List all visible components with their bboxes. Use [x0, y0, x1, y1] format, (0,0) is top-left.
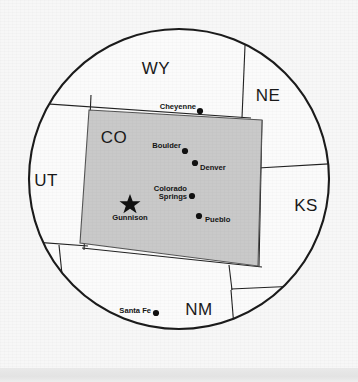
city-label-denver: Denver: [200, 163, 226, 172]
state-label-ne: NE: [256, 86, 281, 105]
city-dot-denver: [192, 160, 198, 166]
city-dot-colorado-springs: [189, 193, 195, 199]
city-label-pueblo: Pueblo: [205, 215, 231, 224]
city-dot-cheyenne: [197, 108, 203, 114]
state-label-wy: WY: [142, 59, 170, 78]
bottom-gray-band: [0, 368, 358, 382]
city-dot-santa-fe: [153, 310, 159, 316]
state-label-nm: NM: [185, 300, 212, 319]
state-label-ut: UT: [34, 171, 58, 190]
city-label-santa-fe: Santa Fe: [119, 306, 151, 315]
city-dot-boulder: [182, 148, 188, 154]
map-figure: WY NE CO UT KS NM Cheyenne Boulder Denve…: [0, 0, 358, 382]
city-dot-pueblo: [196, 213, 202, 219]
city-label-colorado-springs-line2: Springs: [159, 192, 187, 201]
region-map-svg: WY NE CO UT KS NM Cheyenne Boulder Denve…: [0, 0, 358, 382]
city-label-boulder: Boulder: [152, 141, 181, 150]
city-label-gunnison: Gunnison: [112, 213, 148, 222]
state-label-co: CO: [101, 128, 128, 147]
city-label-cheyenne: Cheyenne: [160, 102, 196, 111]
state-label-ks: KS: [294, 196, 318, 215]
